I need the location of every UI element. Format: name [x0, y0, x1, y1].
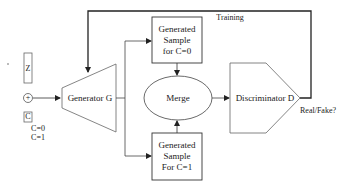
c-value-0: C=0 — [30, 124, 46, 133]
sample-c0-line1: Generated — [152, 24, 202, 35]
z-label: Z — [24, 63, 32, 74]
generator-label: Generator G — [64, 93, 116, 104]
discriminator-label: Discriminator D — [232, 93, 298, 104]
output-label: Real/Fake? — [298, 105, 338, 116]
concat-symbol: + — [24, 92, 32, 103]
sample-c1-line3: For C=1 — [152, 162, 202, 173]
sample-c0-line2: Sample — [152, 35, 202, 46]
sample-c0-line3: for C=0 — [152, 46, 202, 57]
c-value-1: C=1 — [30, 133, 46, 142]
dot-marker — [7, 63, 8, 64]
sample-c1-line1: Generated — [152, 140, 202, 151]
merge-label: Merge — [150, 93, 206, 104]
sample-c1-line2: Sample — [152, 151, 202, 162]
sample-c1-label: Generated Sample For C=1 — [152, 140, 202, 173]
c-label: C — [24, 111, 32, 122]
sample-c0-label: Generated Sample for C=0 — [152, 24, 202, 57]
training-label: Training — [210, 12, 250, 23]
